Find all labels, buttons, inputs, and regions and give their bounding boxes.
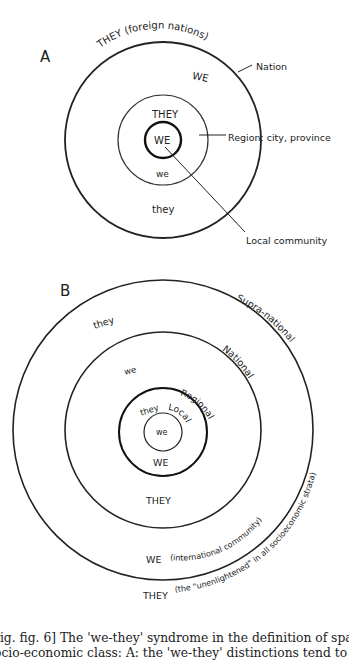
national-label: National [221,343,256,380]
bottom-they: THEY [142,590,168,601]
outer-they-b: they [92,314,116,331]
regional-they: they [139,402,160,417]
nation-leader [238,65,252,72]
nation-label: Nation [256,61,287,72]
caption-line-2: ocio-economic class: A: the 'we-they' di… [0,646,349,661]
mid-they: THEY [151,109,179,120]
they-foreign-nations: THEY (foreign nations) [94,20,211,51]
diagram-b: B Supra-national National Regional Local… [13,280,318,601]
caption-line-1: rig. fig. 6] The 'we-they' syndrome in t… [0,631,349,646]
local-label: Local [168,402,194,424]
core-we: we [156,428,168,437]
figure-caption: rig. fig. 6] The 'we-they' syndrome in t… [0,631,349,661]
diagram-a-label: A [40,48,51,66]
local-leader [165,147,245,232]
intl-community-label: (international community) [170,515,264,562]
intl-we: WE [146,554,161,565]
local-community-label: Local community [246,235,328,246]
national-they: THEY [145,495,171,506]
outer-they: they [152,204,174,215]
outer-we: WE [191,70,209,84]
supra-national-label: Supra-national [235,292,297,344]
national-we: we [123,364,137,377]
inner-we: WE [154,135,170,146]
regional-we: WE [153,457,168,468]
we-they-diagrams: A THEY (foreign nations) Nation WE THEY … [0,0,349,671]
mid-we: we [156,169,169,179]
diagram-a: A THEY (foreign nations) Nation WE THEY … [40,20,331,246]
region-label: Region: city, province [228,132,331,143]
diagram-b-label: B [60,282,70,300]
